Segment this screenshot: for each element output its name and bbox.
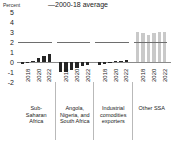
bar — [75, 62, 78, 68]
x-tick-label: 2022 — [123, 69, 129, 82]
y-axis-labels: 543210-1-2 — [0, 12, 16, 82]
x-tick-label: 2018 — [25, 69, 31, 82]
bar — [59, 62, 62, 72]
x-tick-label: 2018 — [102, 69, 108, 82]
bar — [158, 32, 161, 62]
y-tick-label: 4 — [10, 19, 14, 26]
bar — [21, 62, 24, 64]
group-separator — [132, 82, 133, 140]
x-tick-label: 2020 — [113, 69, 119, 82]
x-tick-label: 2020 — [74, 69, 80, 82]
group-caption: Industrialcomoditiesexporters — [94, 105, 133, 125]
bar — [114, 61, 117, 62]
group-caption-line: Africa — [17, 118, 56, 125]
group-caption-line: South Africa — [56, 118, 95, 125]
y-tick-label: -1 — [8, 69, 14, 76]
group-caption: Angola,Nigeria, andSouth Africa — [56, 105, 95, 125]
group-caption-line: Other SSA — [133, 105, 172, 112]
group-caption: Other SSA — [133, 105, 172, 112]
x-tick-label: 2022 — [46, 69, 52, 82]
bar — [31, 61, 34, 63]
chart-legend: —2000-18 average — [48, 1, 108, 8]
average-reference-line — [18, 42, 52, 43]
x-tick-label: 2022 — [85, 69, 91, 82]
bar — [86, 62, 89, 65]
bar — [141, 33, 144, 63]
x-tick-label: 2018 — [140, 69, 146, 82]
average-reference-line — [134, 42, 168, 43]
bar — [98, 62, 101, 65]
y-tick-label: 5 — [10, 9, 14, 16]
bar — [152, 33, 155, 62]
average-reference-line — [95, 42, 129, 43]
y-tick-label: 2 — [10, 39, 14, 46]
group-caption-line: exporters — [94, 118, 133, 125]
y-tick-label: 1 — [10, 49, 14, 56]
chart-container: Percent —2000-18 average 543210-1-2 2018… — [0, 0, 174, 143]
group-captions: Sub-SaharanAfricaAngola,Nigeria, andSout… — [17, 105, 171, 141]
y-tick-label: 3 — [10, 29, 14, 36]
bar — [103, 62, 106, 64]
x-axis-ticks: 2018202020222018202020222018202020222018… — [17, 82, 171, 104]
bar — [26, 62, 29, 63]
average-reference-line — [57, 42, 91, 43]
bar — [136, 32, 139, 62]
group-separator — [93, 82, 94, 140]
x-tick-label: 2020 — [151, 69, 157, 82]
y-axis-title: Percent — [3, 2, 20, 8]
y-tick-label: -2 — [8, 79, 14, 86]
x-tick-label: 2018 — [63, 69, 69, 82]
bar — [108, 62, 111, 63]
bar — [70, 62, 73, 70]
bar — [119, 61, 122, 63]
group-separator — [55, 82, 56, 140]
group-caption: Sub-SaharanAfrica — [17, 105, 56, 125]
y-tick-label: 0 — [10, 59, 14, 66]
bar — [48, 54, 51, 63]
bar — [81, 62, 84, 66]
x-tick-label: 2022 — [162, 69, 168, 82]
bar — [37, 58, 40, 63]
bar — [147, 35, 150, 62]
x-tick-label: 2020 — [36, 69, 42, 82]
bar — [42, 56, 45, 63]
bar — [163, 32, 166, 62]
bar — [125, 60, 128, 62]
